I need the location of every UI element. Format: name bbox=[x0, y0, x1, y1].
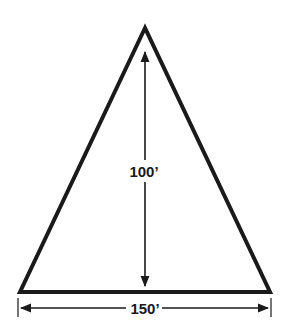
base-label: 150’ bbox=[130, 300, 159, 317]
triangle-diagram: 100’ 150’ bbox=[0, 0, 296, 330]
height-label: 100’ bbox=[129, 163, 158, 180]
